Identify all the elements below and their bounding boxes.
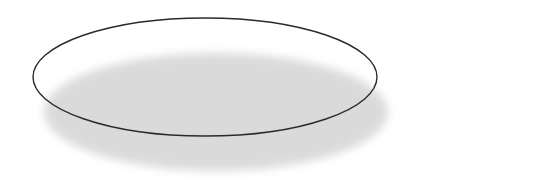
pie-chart-figure: [0, 0, 555, 190]
pie-drop-shadow: [44, 53, 388, 171]
pie-chart-graphic: [0, 0, 400, 190]
